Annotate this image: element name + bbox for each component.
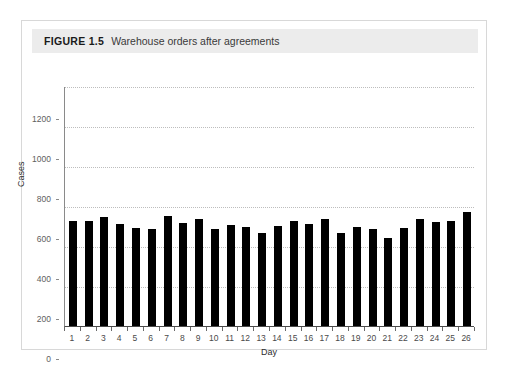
- bar: [384, 238, 392, 326]
- x-axis-tick-mark: [301, 327, 302, 331]
- bar: [274, 226, 282, 326]
- x-axis-tick-label: 15: [288, 333, 297, 343]
- x-axis-tick-mark: [427, 327, 428, 331]
- x-axis-tick-label: 4: [117, 333, 122, 343]
- x-axis-tick-label: 2: [85, 333, 90, 343]
- figure-caption: Warehouse orders after agreements: [111, 35, 279, 47]
- x-axis-tick-mark: [285, 327, 286, 331]
- bar: [400, 228, 408, 326]
- y-axis-tick-label: 600: [37, 234, 51, 244]
- bar: [195, 219, 203, 326]
- x-axis-tick-label: 11: [225, 333, 234, 343]
- bar: [337, 233, 345, 326]
- x-axis-tick-mark: [364, 327, 365, 331]
- figure-title-banner: FIGURE 1.5 Warehouse orders after agreem…: [32, 29, 478, 53]
- bar: [432, 222, 440, 326]
- x-axis-tick-mark: [379, 327, 380, 331]
- x-axis-tick-mark: [143, 327, 144, 331]
- bar: [132, 228, 140, 326]
- x-axis-tick-mark: [174, 327, 175, 331]
- x-axis-tick-mark: [474, 327, 475, 331]
- x-axis-tick-mark: [190, 327, 191, 331]
- y-axis-tick-mark: [56, 359, 59, 360]
- x-axis-tick-mark: [111, 327, 112, 331]
- bar: [85, 221, 93, 326]
- x-axis-tick-mark: [316, 327, 317, 331]
- x-axis-tick-label: 22: [398, 333, 407, 343]
- y-axis-tick-labels: 020040060080010001200: [22, 87, 59, 327]
- bar: [69, 221, 77, 326]
- y-axis-tick-mark: [56, 199, 59, 200]
- bar: [353, 227, 361, 326]
- x-axis-tick-mark: [348, 327, 349, 331]
- x-axis-tick-label: 13: [256, 333, 265, 343]
- bar-series: [65, 87, 474, 326]
- bar: [463, 212, 471, 326]
- bar: [416, 219, 424, 326]
- chart-plot: Cases 020040060080010001200 123456789101…: [22, 55, 488, 351]
- x-axis-tick-label: 3: [101, 333, 106, 343]
- x-axis-tick-mark: [395, 327, 396, 331]
- x-axis-tick-label: 8: [180, 333, 185, 343]
- x-axis-tick-labels: 1234567891011121314151617181920212223242…: [64, 333, 474, 347]
- bar: [242, 227, 250, 326]
- y-axis-tick-mark: [56, 319, 59, 320]
- plot-area: [64, 87, 474, 327]
- x-axis-tick-mark: [96, 327, 97, 331]
- x-axis-tick-mark: [222, 327, 223, 331]
- x-axis-tick-mark: [458, 327, 459, 331]
- bar: [305, 224, 313, 326]
- x-axis-tick-label: 24: [430, 333, 439, 343]
- x-axis-tick-label: 12: [241, 333, 250, 343]
- bar: [116, 224, 124, 326]
- y-axis-tick-label: 200: [37, 314, 51, 324]
- figure-card: FIGURE 1.5 Warehouse orders after agreem…: [21, 20, 487, 350]
- x-axis-tick-label: 16: [304, 333, 313, 343]
- x-axis-tick-mark: [411, 327, 412, 331]
- bar: [369, 229, 377, 326]
- y-axis-tick-mark: [56, 239, 59, 240]
- bar: [148, 229, 156, 326]
- x-axis-tick-mark: [332, 327, 333, 331]
- y-axis-tick-label: 800: [37, 194, 51, 204]
- x-axis-tick-mark: [206, 327, 207, 331]
- x-axis-tick-label: 5: [133, 333, 138, 343]
- x-axis-tick-mark: [159, 327, 160, 331]
- bar: [179, 223, 187, 326]
- bar: [164, 216, 172, 326]
- x-axis-tick-mark: [269, 327, 270, 331]
- x-axis-tick-label: 7: [164, 333, 169, 343]
- x-axis-tick-mark: [237, 327, 238, 331]
- x-axis-tick-mark: [80, 327, 81, 331]
- x-axis-tick-mark: [253, 327, 254, 331]
- x-axis-tick-label: 1: [70, 333, 75, 343]
- x-axis-tick-mark: [64, 327, 65, 331]
- bar: [321, 219, 329, 326]
- y-axis-tick-mark: [56, 119, 59, 120]
- y-axis-tick-label: 400: [37, 274, 51, 284]
- y-axis-tick-label: 1200: [32, 114, 51, 124]
- y-axis-tick-mark: [56, 279, 59, 280]
- x-axis-tick-label: 17: [319, 333, 328, 343]
- bar: [227, 225, 235, 326]
- x-axis-tick-label: 6: [148, 333, 153, 343]
- x-axis-tick-label: 10: [209, 333, 218, 343]
- x-axis-title: Day: [64, 347, 474, 357]
- x-axis-tick-mark: [442, 327, 443, 331]
- x-axis-tick-label: 9: [196, 333, 201, 343]
- bar: [447, 221, 455, 326]
- x-axis-tick-label: 19: [351, 333, 360, 343]
- figure-number-label: FIGURE 1.5: [44, 35, 104, 47]
- x-axis-tick-label: 23: [414, 333, 423, 343]
- bar: [211, 229, 219, 326]
- x-axis-tick-label: 21: [383, 333, 392, 343]
- bar: [100, 217, 108, 326]
- x-axis-tick-label: 20: [367, 333, 376, 343]
- bar: [290, 221, 298, 326]
- y-axis-tick-label: 0: [46, 354, 51, 364]
- x-axis-tick-mark: [127, 327, 128, 331]
- x-axis-tick-label: 25: [446, 333, 455, 343]
- x-axis-tick-label: 14: [272, 333, 281, 343]
- x-axis-tick-label: 18: [335, 333, 344, 343]
- bar: [258, 233, 266, 326]
